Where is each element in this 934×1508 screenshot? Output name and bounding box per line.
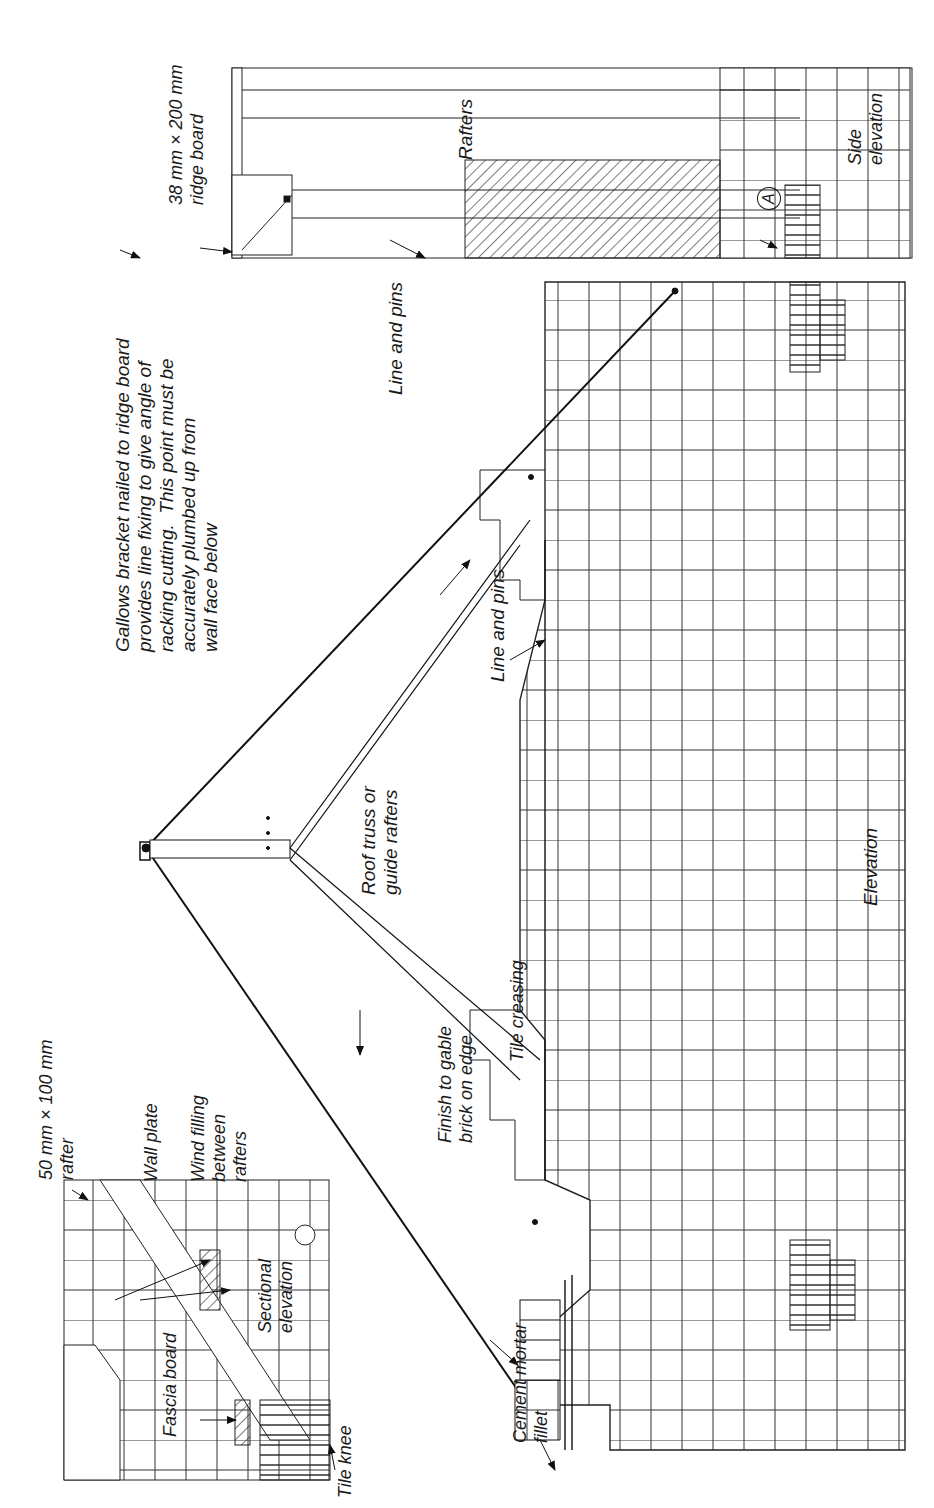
line-and-pins-upper-label: Line and pins bbox=[385, 282, 407, 395]
section-marker-a: A bbox=[757, 187, 781, 210]
rafter-size-label: 50 mm × 100 mm rafter bbox=[36, 1039, 78, 1180]
wind-filling-label: Wind filling between rafters bbox=[188, 1095, 251, 1182]
side-elevation-drawing bbox=[232, 68, 912, 258]
fascia-board-label: Fascia board bbox=[160, 1333, 181, 1437]
tile-creasing-label: Tile creasing bbox=[507, 960, 528, 1062]
wall-plate-label: Wall plate bbox=[141, 1103, 162, 1182]
rafters-label: Rafters bbox=[455, 99, 477, 160]
line-and-pins-lower-label: Line and pins bbox=[487, 569, 509, 682]
gallows-bracket-note: Gallows bracket nailed to ridge board pr… bbox=[112, 338, 222, 652]
elevation-label: Elevation bbox=[860, 828, 882, 906]
tile-knee-label: Tile knee bbox=[335, 1425, 356, 1498]
roof-truss-label: Roof truss or guide rafters bbox=[358, 786, 402, 895]
sectional-elevation-label: Sectional elevation bbox=[255, 1259, 297, 1333]
ridge-board-label: 38 mm × 200 mm ridge board bbox=[166, 64, 208, 205]
finish-to-gable-label: Finish to gable brick on edge bbox=[435, 1026, 477, 1143]
cement-mortar-fillet-label: Cement mortar fillet bbox=[510, 1323, 552, 1443]
gable-setting-out-drawing bbox=[0, 0, 934, 1508]
side-elevation-label: Side elevation bbox=[845, 93, 887, 165]
main-elevation-wall bbox=[470, 282, 905, 1450]
